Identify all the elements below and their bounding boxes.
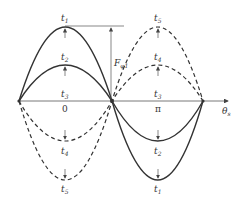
- crossing-point-left: [17, 99, 20, 102]
- waveform-diagram: Fφ1 t1 t2 t3 t5 t4 t3 0 π θs t4 t5 t2 t1: [0, 0, 246, 204]
- axis-label-theta-s: θs: [222, 106, 231, 117]
- crossing-point-right: [201, 99, 204, 102]
- label-t2-bottom: t2: [154, 146, 162, 157]
- label-t5-bottom: t5: [61, 184, 69, 195]
- label-t4-top: t4: [154, 52, 162, 63]
- label-t3-left: t3: [61, 89, 69, 100]
- tick-label-pi: π: [155, 104, 161, 114]
- label-t2-top: t2: [61, 52, 69, 63]
- label-t1-top: t1: [61, 13, 68, 24]
- crossing-point-middle: [110, 99, 114, 103]
- tick-label-zero: 0: [62, 104, 68, 114]
- label-t1-bottom: t1: [154, 184, 161, 195]
- amplitude-label: Fφ1: [113, 58, 128, 70]
- label-t5-top: t5: [154, 13, 162, 24]
- label-t4-bottom: t4: [61, 146, 69, 157]
- label-t3-right: t3: [154, 89, 162, 100]
